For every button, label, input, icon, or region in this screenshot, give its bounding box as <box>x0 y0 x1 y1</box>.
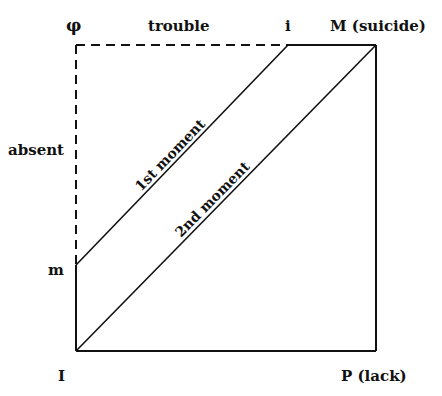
edge-label-trouble: trouble <box>148 17 209 35</box>
corner-label-i-capital: I <box>58 367 65 385</box>
second-moment-line <box>76 45 376 351</box>
point-label-m: m <box>48 261 64 279</box>
corner-label-suicide: M (suicide) <box>330 17 426 35</box>
edge-label-absent: absent <box>8 141 64 159</box>
corner-label-lack: P (lack) <box>341 367 407 385</box>
corner-label-phi: φ <box>66 15 81 35</box>
second-moment-label: 2nd moment <box>172 158 253 240</box>
first-moment-label: 1st moment <box>132 115 209 194</box>
point-label-i: i <box>285 17 291 35</box>
diagram-canvas: φ M (suicide) I P (lack) trouble i absen… <box>0 0 442 396</box>
